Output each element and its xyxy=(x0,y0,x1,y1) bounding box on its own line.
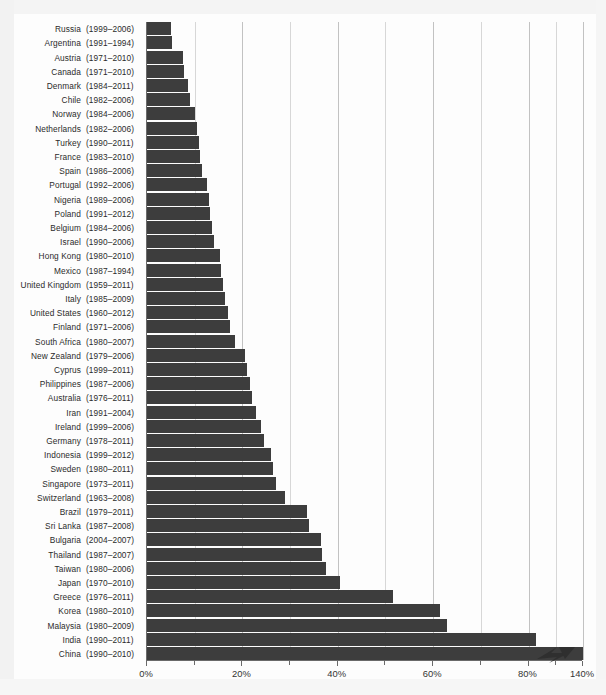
country-name: United Kingdom xyxy=(21,280,81,290)
tick-mark-minor xyxy=(555,661,556,665)
country-name: Iran xyxy=(66,408,81,418)
country-name: Portugal xyxy=(49,180,81,190)
bar xyxy=(147,604,440,617)
period-range: (1999–2012) xyxy=(86,448,140,462)
period-range: (2004–2007) xyxy=(86,533,140,547)
tick-label: 80% xyxy=(518,668,537,679)
country-name: Argentina xyxy=(45,38,81,48)
category-label: Brazil(1979–2011) xyxy=(60,505,140,519)
category-label: Argentina(1991–1994) xyxy=(45,36,140,50)
country-name: Cyprus xyxy=(54,365,81,375)
category-label: Germany(1978–2011) xyxy=(46,434,140,448)
country-name: Norway xyxy=(52,109,81,119)
period-range: (1978–2011) xyxy=(86,434,140,448)
country-name: Chile xyxy=(62,95,81,105)
country-name: Russia xyxy=(55,24,81,34)
period-range: (1986–2006) xyxy=(86,164,140,178)
category-label: Sri Lanka(1987–2008) xyxy=(45,519,140,533)
period-range: (1987–2007) xyxy=(86,548,140,562)
period-range: (1999–2006) xyxy=(86,420,140,434)
country-name: Italy xyxy=(65,294,81,304)
bar xyxy=(147,320,230,333)
period-range: (1980–2010) xyxy=(86,249,140,263)
bar xyxy=(147,519,309,532)
category-label: Korea(1980–2010) xyxy=(58,604,140,618)
bar xyxy=(147,491,285,504)
category-label: Sweden(1980–2011) xyxy=(50,462,140,476)
period-range: (1973–2011) xyxy=(86,477,140,491)
period-range: (1979–2011) xyxy=(86,505,140,519)
bar xyxy=(147,363,247,376)
bar xyxy=(147,65,184,78)
bar xyxy=(147,178,207,191)
category-label: Philippines(1987–2006) xyxy=(40,377,140,391)
tick-label: 40% xyxy=(327,668,346,679)
period-range: (1987–2006) xyxy=(86,377,140,391)
tick-mark-minor xyxy=(194,661,195,665)
tick-mark xyxy=(582,661,583,666)
category-label: Bulgaria(2004–2007) xyxy=(50,533,140,547)
category-axis-labels: Russia(1999–2006)Argentina(1991–1994)Aus… xyxy=(0,22,146,661)
period-range: (1990–2006) xyxy=(86,235,140,249)
country-name: Sri Lanka xyxy=(45,521,81,531)
tick-mark-minor xyxy=(480,661,481,665)
tick-mark-minor xyxy=(289,661,290,665)
bar xyxy=(147,22,171,35)
period-range: (1971–2010) xyxy=(86,65,140,79)
country-name: Belgium xyxy=(50,223,81,233)
bar xyxy=(147,335,235,348)
bar xyxy=(147,136,199,149)
bar xyxy=(147,79,188,92)
bar xyxy=(147,619,447,632)
period-range: (1992–2006) xyxy=(86,178,140,192)
tick-mark xyxy=(241,661,242,666)
country-name: Philippines xyxy=(40,379,81,389)
bar xyxy=(147,590,393,603)
category-label: Singapore(1973–2011) xyxy=(42,477,140,491)
period-range: (1976–2011) xyxy=(86,590,140,604)
bar xyxy=(147,505,307,518)
country-name: Mexico xyxy=(54,266,81,276)
country-name: Brazil xyxy=(60,507,81,517)
bar xyxy=(147,420,261,433)
category-label: Canada(1971–2010) xyxy=(51,65,140,79)
category-label: Hong Kong(1980–2010) xyxy=(39,249,140,263)
tick-mark-minor xyxy=(384,661,385,665)
bar xyxy=(147,391,252,404)
bar xyxy=(147,278,223,291)
category-label: Cyprus(1999–2011) xyxy=(54,363,140,377)
period-range: (1979–2006) xyxy=(86,349,140,363)
period-range: (1999–2006) xyxy=(86,22,140,36)
country-name: United States xyxy=(30,308,81,318)
category-label: Australia(1976–2011) xyxy=(48,391,140,405)
bar xyxy=(147,122,197,135)
bar xyxy=(147,36,172,49)
period-range: (1963–2008) xyxy=(86,491,140,505)
country-name: Netherlands xyxy=(35,124,81,134)
bar xyxy=(147,633,536,646)
bar xyxy=(147,235,214,248)
country-name: Hong Kong xyxy=(39,251,81,261)
country-name: Ireland xyxy=(55,422,81,432)
bar xyxy=(147,51,183,64)
category-label: Nigeria(1989–2006) xyxy=(54,193,140,207)
category-label: Portugal(1992–2006) xyxy=(49,178,140,192)
period-range: (1990–2011) xyxy=(86,633,140,647)
country-name: Malaysia xyxy=(47,621,81,631)
country-name: South Africa xyxy=(35,337,81,347)
category-label: Turkey(1990–2011) xyxy=(55,136,140,150)
category-label: China(1990–2010) xyxy=(59,647,140,661)
country-name: Denmark xyxy=(47,81,81,91)
period-range: (1984–2006) xyxy=(86,107,140,121)
bar xyxy=(147,292,225,305)
bar xyxy=(147,207,210,220)
bar xyxy=(147,164,202,177)
bar xyxy=(147,107,195,120)
period-range: (1982–2006) xyxy=(86,93,140,107)
category-label: Greece(1976–2011) xyxy=(53,590,140,604)
country-name: Taiwan xyxy=(55,564,81,574)
category-label: Taiwan(1980–2006) xyxy=(55,562,140,576)
period-range: (1959–2011) xyxy=(86,278,140,292)
period-range: (1980–2007) xyxy=(86,335,140,349)
period-range: (1971–2006) xyxy=(86,320,140,334)
